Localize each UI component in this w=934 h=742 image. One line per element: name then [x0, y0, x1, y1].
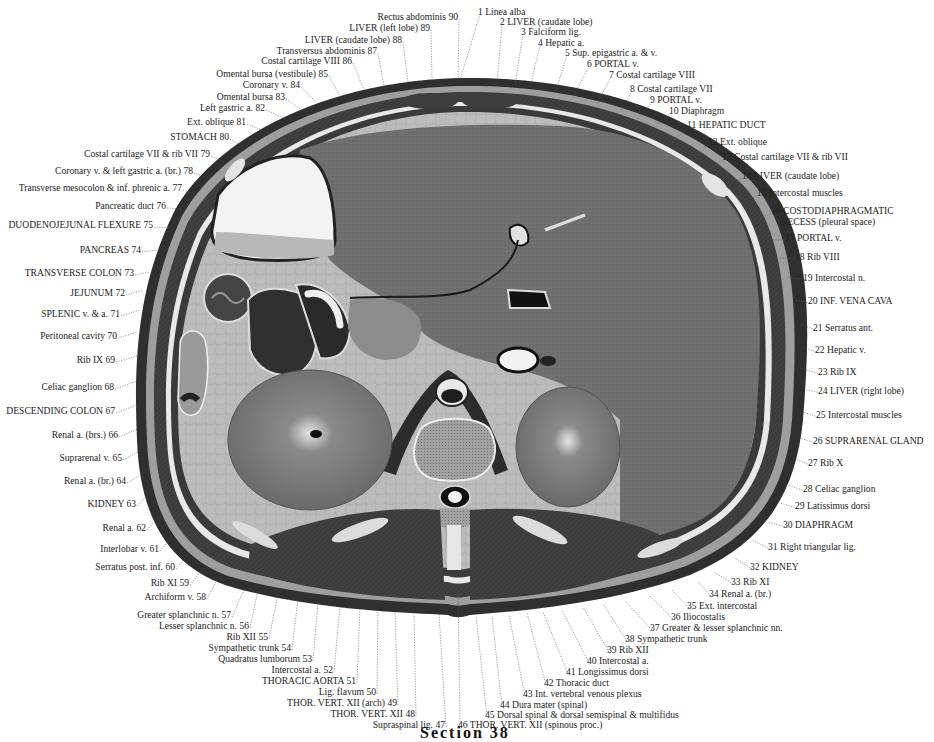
label-text: LIVER (caudate lobe) 88: [305, 34, 402, 45]
figure-caption: Section 38: [420, 724, 510, 742]
label-text: Omental bursa (vestibule) 85: [216, 68, 328, 79]
label-70: Peritoneal cavity 70: [40, 330, 117, 341]
label-77: Transverse mesocolon & inf. phrenic a. 7…: [19, 182, 182, 193]
leader-line-73: [135, 272, 150, 275]
label-text: 43 Int. vertebral venous plexus: [523, 688, 642, 699]
vertebral-body: [414, 419, 495, 481]
label-text: 34 Renal a. (br.): [709, 588, 771, 599]
leader-line-86: [353, 63, 364, 90]
label-85: Omental bursa (vestibule) 85: [216, 68, 328, 79]
leader-line-51: [357, 608, 360, 683]
label-text: 39 Rib XII: [607, 644, 649, 655]
label-text: PANCREAS 74: [80, 244, 141, 255]
inferior-vena-cava: [498, 348, 538, 372]
leader-line-84: [301, 87, 316, 102]
label-text: Transversus abdominis 87: [277, 45, 377, 56]
label-text: Serratus post. inf. 60: [95, 561, 175, 572]
label-50: Lig. flavum 50: [319, 686, 376, 697]
label-text: 37 Greater & lesser splanchnic nn.: [650, 622, 783, 633]
leader-line-89: [431, 30, 432, 80]
label-text: LIVER (left lobe) 89: [349, 22, 430, 33]
label-8: 8 Costal cartilage VII: [630, 83, 713, 94]
leader-line-45: [476, 616, 487, 717]
label-60: Serratus post. inf. 60: [95, 561, 175, 572]
label-48: THOR. VERT. XII 48: [330, 708, 415, 719]
label-6: 6 PORTAL v.: [587, 58, 639, 69]
leader-line-3: [515, 34, 523, 85]
label-text: 11 HEPATIC DUCT: [687, 119, 766, 130]
label-text: 23 Rib IX: [818, 366, 856, 377]
label-17: 17 PORTAL v.: [785, 232, 842, 243]
label-19: 19 Intercostal n.: [803, 272, 865, 283]
label-text: Rib XI 59: [151, 577, 189, 588]
label-text: SPLENIC v. & a. 71: [41, 308, 120, 319]
label-10: 10 Diaphragm: [669, 105, 724, 116]
kidney-right: [516, 387, 620, 507]
label-text: Intercostal a. 52: [271, 664, 333, 675]
label-22: 22 Hepatic v.: [815, 344, 866, 355]
label-text: 8 Costal cartilage VII: [630, 83, 713, 94]
label-text: Rectus abdominis 90: [378, 11, 458, 22]
label-text: Renal a. 62: [103, 522, 146, 533]
label-21: 21 Serratus ant.: [813, 322, 873, 333]
leader-line-74: [142, 250, 157, 252]
label-text: 5 Sup. epigastric a. & v.: [565, 47, 657, 58]
label-88: LIVER (caudate lobe) 88: [305, 34, 402, 45]
label-subtext: RECESS (pleural space): [771, 216, 894, 227]
label-28: 28 Celiac ganglion: [803, 483, 875, 494]
label-20: 20 INF. VENA CAVA: [808, 295, 893, 306]
label-71: SPLENIC v. & a. 71: [41, 308, 120, 319]
leader-line-70: [118, 332, 137, 338]
label-57: Greater splanchnic n. 57: [137, 609, 231, 620]
label-text: 31 Right triangular lig.: [768, 541, 856, 552]
kidney-left: [228, 370, 392, 510]
label-text: 26 SUPRARENAL GLAND: [813, 435, 924, 446]
label-29: 29 Latissimus dorsi: [795, 500, 870, 511]
label-text: Omental bursa 83: [217, 91, 285, 102]
leader-line-44: [492, 616, 502, 707]
label-90: Rectus abdominis 90: [378, 11, 458, 22]
label-83: Omental bursa 83: [217, 91, 285, 102]
leader-line-69: [116, 356, 137, 362]
label-text: 32 KIDNEY: [750, 561, 799, 572]
label-27: 27 Rib X: [808, 457, 843, 468]
label-text: 42 Thoracic duct: [544, 677, 609, 688]
label-text: 33 Rib XI: [731, 576, 769, 587]
leader-line-39: [583, 607, 609, 652]
label-30: 30 DIAPHRAGM: [783, 519, 853, 530]
label-40: 40 Intercostal a.: [587, 655, 649, 666]
label-51: THORACIC AORTA 51: [262, 675, 356, 686]
label-18: 18 Rib VIII: [795, 251, 840, 262]
leader-line-90: [458, 19, 459, 80]
label-24: 24 LIVER (right lobe): [818, 385, 904, 396]
label-89: LIVER (left lobe) 89: [349, 22, 430, 33]
label-43: 43 Int. vertebral venous plexus: [523, 688, 642, 699]
label-42: 42 Thoracic duct: [544, 677, 609, 688]
leader-line-83: [286, 99, 302, 110]
label-text: 29 Latissimus dorsi: [795, 500, 870, 511]
label-81: Ext. oblique 81: [187, 116, 246, 127]
leader-line-1: [460, 14, 480, 80]
leader-line-57: [232, 590, 244, 617]
label-15: 15 Intercostal muscles: [757, 187, 843, 198]
leader-line-37: [625, 601, 652, 630]
descending-colon: [178, 331, 208, 415]
leader-line-54: [292, 598, 298, 650]
label-75: DUODENOJEJUNAL FLEXURE 75: [8, 219, 153, 230]
label-text: Rib IX 69: [77, 354, 115, 365]
label-37: 37 Greater & lesser splanchnic nn.: [650, 622, 783, 633]
portal-vein: [510, 225, 528, 246]
label-text: 24 LIVER (right lobe): [818, 385, 904, 396]
label-text: 14 LIVER (caudate lobe): [742, 170, 839, 181]
leader-line-48: [414, 614, 416, 716]
label-text: 13 Costal cartilage VII & rib VII: [722, 151, 848, 162]
leader-line-40: [562, 610, 589, 663]
label-63: KIDNEY 63: [88, 498, 136, 509]
label-76: Pancreatic duct 76: [95, 200, 166, 211]
label-text: DESCENDING COLON 67: [6, 405, 115, 416]
label-86: Costal cartilage VIII 86: [261, 55, 352, 66]
label-9: 9 PORTAL v.: [650, 94, 702, 105]
label-text: 35 Ext. intercostal: [687, 600, 757, 611]
label-text: 18 Rib VIII: [795, 251, 840, 262]
label-80: STOMACH 80: [170, 131, 229, 142]
